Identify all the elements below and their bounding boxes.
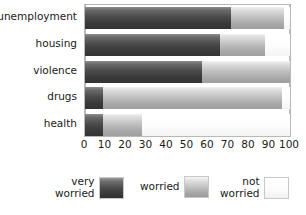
bar-segment-health-not-worried [142,114,290,136]
legend-item-very-worried[interactable]: veryworried [55,176,124,199]
legend-label-line1: worried [140,181,180,193]
legend-swatch-worried [184,176,209,198]
x-tick-label-60: 60 [200,138,213,150]
category-axis-labels: unemploymenthousingviolencedrugshealth [0,4,80,137]
x-tick-label-100: 100 [279,138,299,150]
bar-segment-drugs-very-worried [85,87,103,109]
legend-label-line1: very [55,176,95,188]
stacked-bar-chart: unemploymenthousingviolencedrugshealth 0… [0,0,306,215]
legend-label-not-worried: notworried [220,176,260,199]
bar-health [85,114,290,136]
x-tick-label-70: 70 [221,138,234,150]
legend-label-very-worried: veryworried [55,176,95,199]
category-label-drugs: drugs [47,91,77,102]
category-label-violence: violence [33,65,77,76]
bar-segment-unemployment-very-worried [85,7,231,29]
bar-violence [85,61,290,83]
category-label-health: health [44,118,77,129]
legend-label-line2: worried [55,188,95,200]
x-tick-label-0: 0 [81,138,88,150]
bar-segment-health-worried [103,114,142,136]
bar-unemployment [85,7,290,29]
bar-segment-unemployment-worried [231,7,284,29]
legend-swatch-very-worried [99,177,124,199]
plot-wrapper: unemploymenthousingviolencedrugshealth 0… [0,4,306,144]
x-tick-label-40: 40 [159,138,172,150]
bar-segment-housing-very-worried [85,34,220,56]
category-label-unemployment: unemployment [0,11,77,22]
legend-swatch-not-worried [264,177,289,199]
x-tick-label-30: 30 [139,138,152,150]
x-tick-label-10: 10 [98,138,111,150]
value-axis: 0102030405060708090100 [84,138,291,154]
x-tick-label-90: 90 [262,138,275,150]
legend-label-line2: worried [220,188,260,200]
bar-segment-drugs-worried [103,87,281,109]
bar-housing [85,34,290,56]
x-tick-label-80: 80 [241,138,254,150]
plot-area [84,4,291,137]
category-label-housing: housing [36,38,77,49]
bar-drugs [85,87,290,109]
bar-segment-housing-worried [220,34,265,56]
bar-segment-drugs-not-worried [282,87,290,109]
bar-segment-violence-worried [202,61,290,83]
x-tick-label-50: 50 [180,138,193,150]
bar-segment-violence-very-worried [85,61,202,83]
chart-legend: veryworriedworriednotworried [0,172,306,212]
bar-segment-housing-not-worried [265,34,290,56]
bar-segment-health-very-worried [85,114,103,136]
x-tick-label-20: 20 [118,138,131,150]
legend-label-worried: worried [140,181,180,193]
legend-label-line1: not [220,176,260,188]
legend-item-not-worried[interactable]: notworried [220,176,289,199]
legend-item-worried[interactable]: worried [140,176,209,198]
bar-segment-unemployment-not-worried [284,7,290,29]
